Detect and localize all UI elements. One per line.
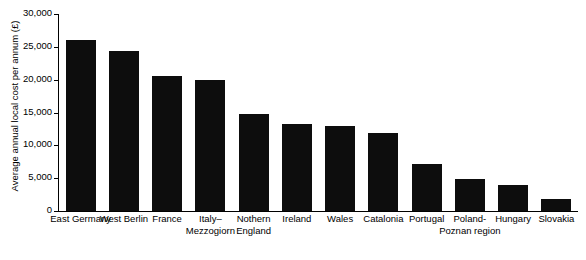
y-tick-label: 25,000 [23, 40, 52, 51]
bar [325, 126, 355, 211]
y-axis-title: Average annual local cost per annum (£) [6, 0, 24, 212]
y-tick-label: 10,000 [23, 138, 52, 149]
bar [109, 51, 139, 211]
y-tick-label: 30,000 [23, 7, 52, 18]
bar [66, 40, 96, 211]
bar [455, 179, 485, 211]
bar-slot [239, 14, 269, 211]
bar-slot [541, 14, 571, 211]
bar-slot [498, 14, 528, 211]
x-axis-category-labels: East GermanyWest BerlinFranceItaly–Mezzo… [59, 213, 579, 260]
bar [498, 185, 528, 211]
x-axis-line [58, 211, 578, 212]
bar [541, 199, 571, 211]
bar-series [59, 14, 578, 211]
plot-area: 05,00010,00015,00020,00025,00030,000 [58, 14, 578, 211]
bar [152, 76, 182, 211]
bar [412, 164, 442, 211]
bar [239, 114, 269, 211]
bar-slot [368, 14, 398, 211]
bar [282, 124, 312, 211]
bar-slot [66, 14, 96, 211]
bar-slot [455, 14, 485, 211]
bar-slot [325, 14, 355, 211]
bar-chart: Average annual local cost per annum (£) … [0, 0, 586, 260]
y-tick-label: 20,000 [23, 73, 52, 84]
bar-slot [109, 14, 139, 211]
bar [368, 133, 398, 211]
bar [195, 80, 225, 211]
y-tick-label: 15,000 [23, 106, 52, 117]
y-tick-label: 5,000 [28, 171, 52, 182]
bar-slot [152, 14, 182, 211]
x-axis-category-label: Slovakia [525, 213, 586, 225]
y-tick-mark [54, 211, 59, 212]
bar-slot [195, 14, 225, 211]
bar-slot [412, 14, 442, 211]
bar-slot [282, 14, 312, 211]
